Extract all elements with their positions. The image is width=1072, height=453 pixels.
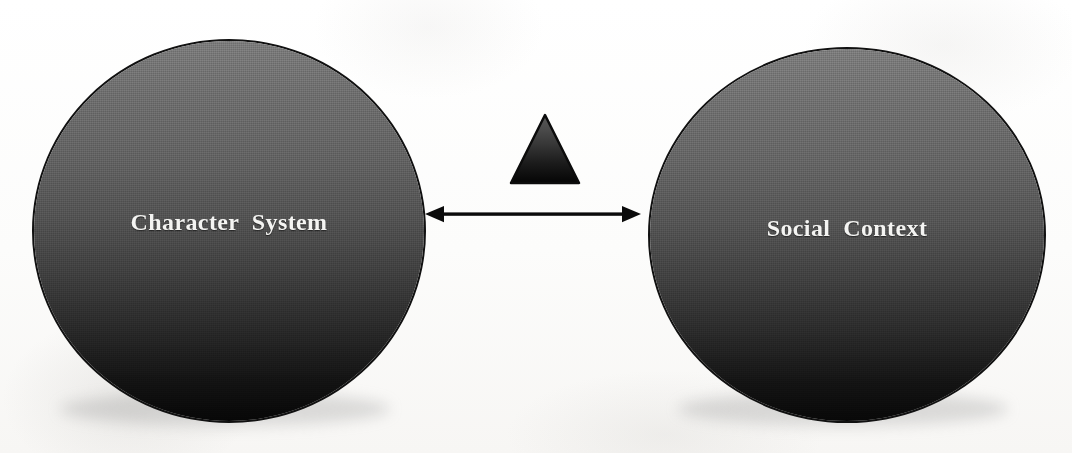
connector-arrowhead-left — [425, 206, 444, 222]
connector-shaft — [437, 212, 629, 215]
node-character-system-label: Character System — [131, 209, 328, 236]
connector-arrowhead-right — [622, 206, 641, 222]
node-social-context-label: Social Context — [767, 215, 928, 242]
node-social-context[interactable]: Social Context — [648, 47, 1046, 423]
node-triangle[interactable] — [508, 112, 582, 186]
triangle-shape — [511, 115, 579, 183]
node-character-system[interactable]: Character System — [32, 39, 426, 423]
connector-character-system-social-context[interactable] — [424, 198, 642, 230]
diagram-canvas: Character System Social Context — [0, 0, 1072, 453]
